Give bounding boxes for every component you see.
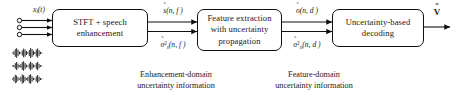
caption-feature-line-2: uncertainty information — [234, 81, 394, 92]
signal-label-o-tilde: o˜(n, d ) — [281, 7, 333, 16]
signal-label-s-tilde: s˜(n, f ) — [148, 7, 198, 16]
input-signal-tail: (t) — [38, 5, 45, 14]
o-tilde-glyph: o˜ — [296, 7, 300, 16]
block-diagram: xi(t) STFT + speech enhancement Feature … — [0, 0, 458, 105]
block-stft-line-1: STFT + speech — [73, 17, 127, 28]
block-feature-line-2: with uncertainty — [207, 24, 271, 35]
speech-waveform-group — [12, 48, 42, 84]
block-decoding-line-2: decoding — [346, 28, 411, 39]
feature-to-decoding-arrows — [282, 22, 332, 32]
caption-enhancement-domain: Enhancement-domain uncertainty informati… — [96, 70, 256, 91]
v-hat-glyph: ˜V˜ — [434, 8, 441, 17]
signal-label-sigma-s: σ˜2s(n, f ) — [145, 39, 201, 51]
caption-enhancement-line-2: uncertainty information — [96, 81, 256, 92]
sigma-s-glyph: σ˜ — [160, 41, 164, 50]
sigma-s-args: (n, f ) — [169, 40, 186, 49]
caption-enhancement-line-1: Enhancement-domain — [96, 70, 256, 81]
signal-label-sigma-o: σ˜2o(n, d ) — [278, 39, 336, 51]
microphone-icon — [17, 18, 21, 22]
microphone-icon — [17, 32, 21, 36]
block-stft-line-2: enhancement — [73, 28, 127, 39]
caption-feature-line-1: Feature-domain — [234, 70, 394, 81]
s-tilde-args: (n, f ) — [166, 6, 183, 15]
block-uncertainty-decoding[interactable]: Uncertainty-based decoding — [332, 9, 424, 47]
speech-waveform — [12, 74, 42, 84]
stft-to-feature-arrows — [148, 22, 197, 32]
microphone-array — [17, 18, 21, 36]
speech-waveform — [12, 48, 42, 58]
block-stft-speech-enhancement[interactable]: STFT + speech enhancement — [52, 9, 148, 47]
sigma-o-glyph: σ˜ — [293, 41, 297, 50]
block-feature-extraction[interactable]: Feature extraction with uncertainty prop… — [197, 9, 282, 51]
sigma-o-args: (n, d ) — [302, 40, 320, 49]
block-feature-line-1: Feature extraction — [207, 13, 271, 24]
microphone-icon — [17, 25, 21, 29]
output-signal-label: ˜V˜ — [425, 8, 449, 17]
input-arrows — [22, 21, 52, 35]
speech-waveform — [12, 61, 42, 71]
o-tilde-args: (n, d ) — [300, 6, 318, 15]
s-tilde-glyph: s˜ — [163, 7, 166, 16]
caption-feature-domain: Feature-domain uncertainty information — [234, 70, 394, 91]
block-decoding-line-1: Uncertainty-based — [346, 17, 411, 28]
block-feature-line-3: propagation — [207, 36, 271, 47]
